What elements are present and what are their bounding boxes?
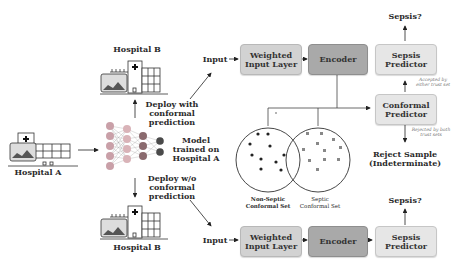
weighted-bottom-line-2: Input Layer bbox=[245, 242, 297, 251]
neural-network-icon bbox=[106, 122, 164, 170]
rejected-line-2: trust sets bbox=[405, 132, 457, 137]
hospital-b-bottom-label: Hospital B bbox=[112, 243, 162, 252]
deploy-without-conformal-label: Deploy w/o conformal prediction bbox=[142, 174, 202, 201]
deploy-with-line-3: prediction bbox=[142, 118, 202, 127]
accepted-line-2: either trust set bbox=[408, 82, 458, 87]
septic-line-1: Septic bbox=[290, 196, 350, 203]
conformal-predictor-box: ConformalPredictor bbox=[375, 94, 437, 125]
septic-line-2: Conformal Set bbox=[290, 203, 350, 210]
model-trained-label: Model trained on Hospital A bbox=[168, 136, 224, 163]
model-line-3: Hospital A bbox=[168, 154, 224, 163]
reject-line-2: (Indeterminate) bbox=[365, 159, 445, 168]
sepsis-output-bottom: Sepsis? bbox=[380, 196, 430, 205]
non-septic-conformal-set-circle bbox=[236, 128, 300, 192]
sepsis-predictor-box-top: SepsisPredictor bbox=[375, 44, 437, 75]
input-top-label: Input bbox=[200, 55, 230, 64]
arrow-to-input-top bbox=[190, 73, 211, 99]
non-septic-set-label: Non-Septic Conformal Set bbox=[238, 196, 298, 210]
septic-set-label: Septic Conformal Set bbox=[290, 196, 350, 210]
hospital-b-top-label: Hospital B bbox=[112, 45, 162, 54]
hospital-b-top-icon bbox=[100, 61, 168, 94]
weighted-line-2: Input Layer bbox=[245, 60, 297, 69]
input-bottom-label: Input bbox=[200, 236, 230, 245]
sepsis-predictor-line-2: Predictor bbox=[385, 60, 427, 69]
encoder-box-bottom: Encoder bbox=[308, 226, 368, 257]
diagram-connectors bbox=[0, 0, 458, 262]
sepsis-predictor-box-bottom: SepsisPredictor bbox=[375, 226, 437, 257]
sepsis-output-top: Sepsis? bbox=[380, 12, 430, 21]
arrow-to-input-bottom bbox=[190, 200, 211, 226]
non-septic-line-1: Non-Septic bbox=[238, 196, 298, 203]
reject-sample-label: Reject Sample (Indeterminate) bbox=[365, 150, 445, 168]
hospital-a-icon bbox=[8, 133, 78, 166]
deploy-without-line-3: prediction bbox=[142, 192, 202, 201]
weighted-input-layer-box-bottom: WeightedInput Layer bbox=[240, 226, 302, 257]
conformal-line-2: Predictor bbox=[382, 110, 429, 119]
hospital-a-label: Hospital A bbox=[8, 168, 68, 177]
sepsis-predictor-bottom-line-2: Predictor bbox=[385, 242, 427, 251]
deploy-with-conformal-label: Deploy with conformal prediction bbox=[142, 100, 202, 127]
encoder-box-top: Encoder bbox=[308, 44, 368, 75]
weighted-input-layer-box-top: WeightedInput Layer bbox=[240, 44, 302, 75]
rejected-note: Rejected by both trust sets bbox=[405, 127, 457, 137]
hospital-b-bottom-icon bbox=[100, 206, 168, 239]
non-septic-line-2: Conformal Set bbox=[238, 203, 298, 210]
accepted-note: Accepted by either trust set bbox=[408, 77, 458, 87]
